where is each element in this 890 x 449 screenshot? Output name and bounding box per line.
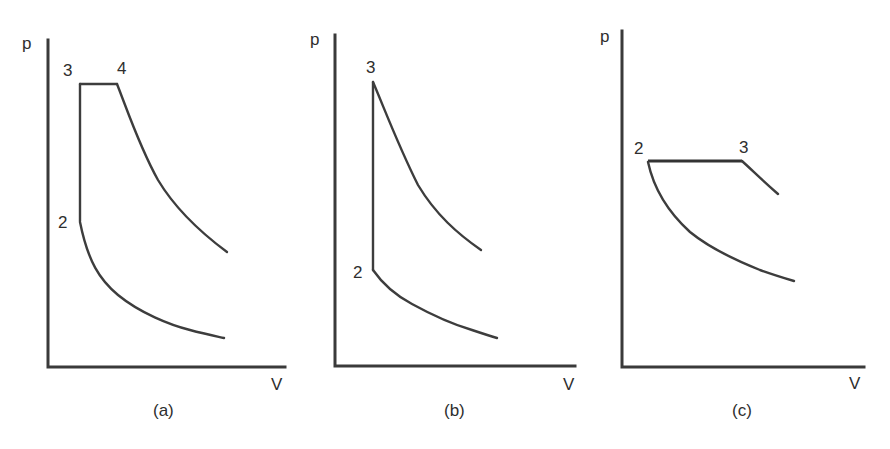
panel-a-state-4: 4 [117,59,126,78]
panel-a-expansion-curve [117,84,227,252]
panel-c: p V 2 3 (c) [600,27,864,420]
panel-a-state-3: 3 [63,61,72,80]
panel-c-axes [622,31,864,367]
panel-a-state-2: 2 [58,213,67,232]
panel-b-compression-curve [373,270,497,338]
panel-b-caption: (b) [444,401,465,420]
panel-a-caption: (a) [153,401,174,420]
panel-c-state-2: 2 [634,139,643,158]
panel-b-x-axis-label: V [563,375,575,394]
panel-c-x-axis-label: V [849,374,861,393]
panel-a-compression-curve [80,222,224,338]
pv-diagrams-figure: p V 3 4 2 (a) p V 3 2 (b) p V [0,0,890,449]
panel-c-compression-curve [648,162,794,281]
panel-b-axes [335,35,575,366]
panel-c-expansion-curve [742,161,778,194]
panel-b-state-2: 2 [353,263,362,282]
panel-c-caption: (c) [732,401,752,420]
panel-a: p V 3 4 2 (a) [22,34,285,420]
panel-b-state-3: 3 [366,58,375,77]
panel-b-y-axis-label: p [310,30,319,49]
panel-b-expansion-curve [373,82,481,250]
panel-a-axes [48,40,285,367]
panel-b: p V 3 2 (b) [310,30,575,420]
panel-c-y-axis-label: p [600,27,609,46]
panel-a-x-axis-label: V [271,375,283,394]
panel-c-state-3: 3 [739,138,748,157]
panel-a-y-axis-label: p [22,34,31,53]
